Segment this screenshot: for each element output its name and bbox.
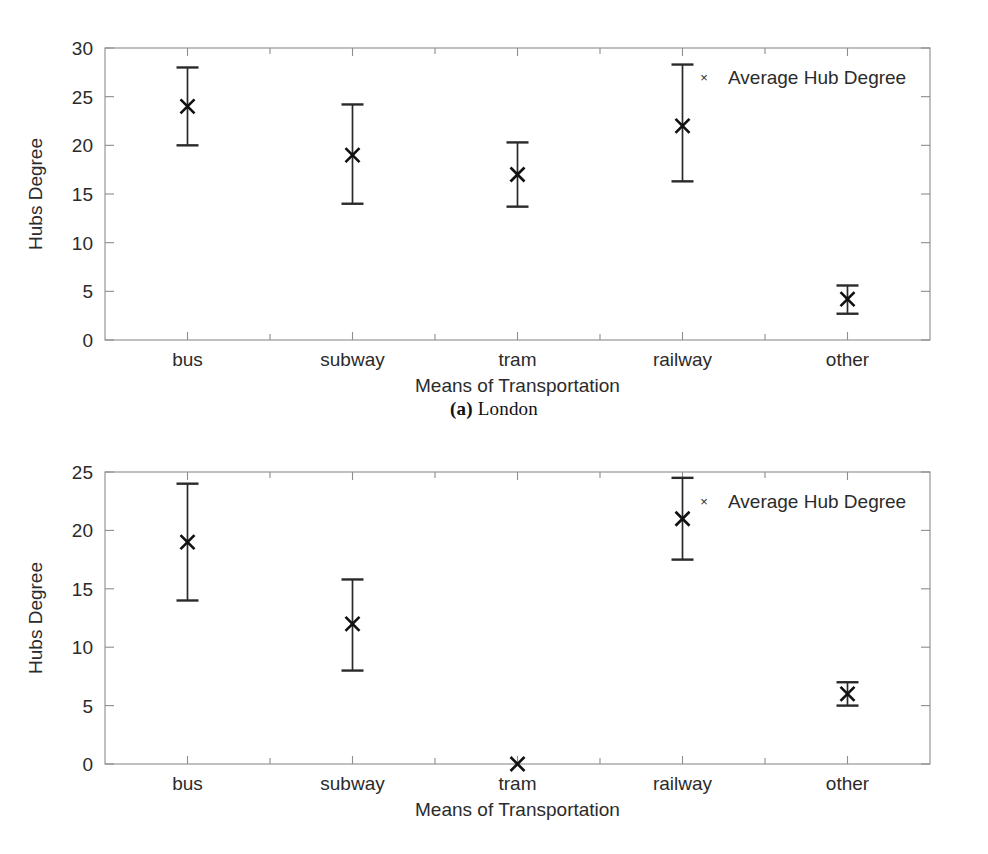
data-point-group [507,142,529,206]
plot-area-london: 051015202530bussubwaytramrailwayotherMea… [0,0,988,400]
data-point-group [342,104,364,203]
x-tick-label: subway [320,349,385,370]
chart-svg-newyork: 0510152025bussubwaytramrailwayotherMeans… [0,424,988,824]
data-point-group [672,478,694,560]
data-point-group [837,682,859,705]
y-tick-label: 30 [72,38,93,59]
x-tick-label: bus [172,773,203,794]
caption-tag-a: (a) [450,398,473,419]
chart-svg-london: 051015202530bussubwaytramrailwayotherMea… [0,0,988,400]
x-tick-label: other [826,773,870,794]
y-tick-label: 20 [72,520,93,541]
y-tick-label: 10 [72,637,93,658]
x-tick-label: other [826,349,870,370]
legend-x-marker-icon: × [700,494,708,509]
y-tick-label: 0 [82,330,93,351]
chart-panel-newyork: 0510152025bussubwaytramrailwayotherMeans… [0,424,988,854]
x-axis-title: Means of Transportation [415,375,620,396]
x-tick-label: tram [499,349,537,370]
y-tick-label: 0 [82,754,93,775]
data-point-group [177,67,199,145]
figure-container: 051015202530bussubwaytramrailwayotherMea… [0,0,988,854]
legend-x-marker-icon: × [700,70,708,85]
legend-label-average-hub-degree: Average Hub Degree [728,67,906,88]
data-point-group [342,579,364,670]
x-axis-title: Means of Transportation [415,799,620,820]
y-axis-title: Hubs Degree [25,562,46,674]
plot-area-newyork: 0510152025bussubwaytramrailwayotherMeans… [0,424,988,824]
plot-frame [105,472,930,764]
y-tick-label: 20 [72,135,93,156]
y-tick-label: 5 [82,281,93,302]
y-tick-label: 25 [72,87,93,108]
figure-caption-london: (a) London [0,398,988,420]
chart-panel-london: 051015202530bussubwaytramrailwayotherMea… [0,0,988,430]
caption-text-a: London [478,398,538,419]
y-tick-label: 5 [82,696,93,717]
y-tick-label: 15 [72,184,93,205]
y-tick-label: 10 [72,233,93,254]
data-point-group [837,285,859,313]
data-point-group [177,484,199,601]
x-tick-label: tram [499,773,537,794]
x-tick-label: railway [653,773,713,794]
x-tick-label: railway [653,349,713,370]
data-point-group [672,65,694,182]
x-tick-label: bus [172,349,203,370]
legend-label-average-hub-degree: Average Hub Degree [728,491,906,512]
y-axis-title: Hubs Degree [25,138,46,250]
x-tick-label: subway [320,773,385,794]
y-tick-label: 25 [72,462,93,483]
y-tick-label: 15 [72,579,93,600]
